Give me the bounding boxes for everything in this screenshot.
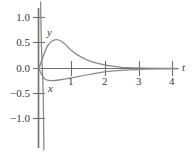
xtick-label-1: 1	[68, 76, 74, 87]
xtick-label-3: 3	[136, 76, 142, 87]
chart-figure: 1.0 0.5 0.0 −0.5 −1.0 1 2 3 4 t y x	[0, 0, 196, 152]
ytick-label-1-0: 1.0	[2, 12, 30, 23]
curve-x	[39, 69, 178, 81]
ytick-label-0-0: 0.0	[2, 63, 30, 74]
xtick-label-2: 2	[102, 76, 108, 87]
curve-y	[39, 40, 178, 69]
ytick-label-neg-1-0: −1.0	[0, 113, 30, 124]
curve-label-x: x	[48, 83, 53, 94]
curve-label-y: y	[47, 27, 52, 38]
ytick-label-0-5: 0.5	[2, 37, 30, 48]
ytick-label-neg-0-5: −0.5	[0, 88, 30, 99]
xtick-label-4: 4	[169, 76, 175, 87]
x-axis-label: t	[182, 62, 185, 73]
